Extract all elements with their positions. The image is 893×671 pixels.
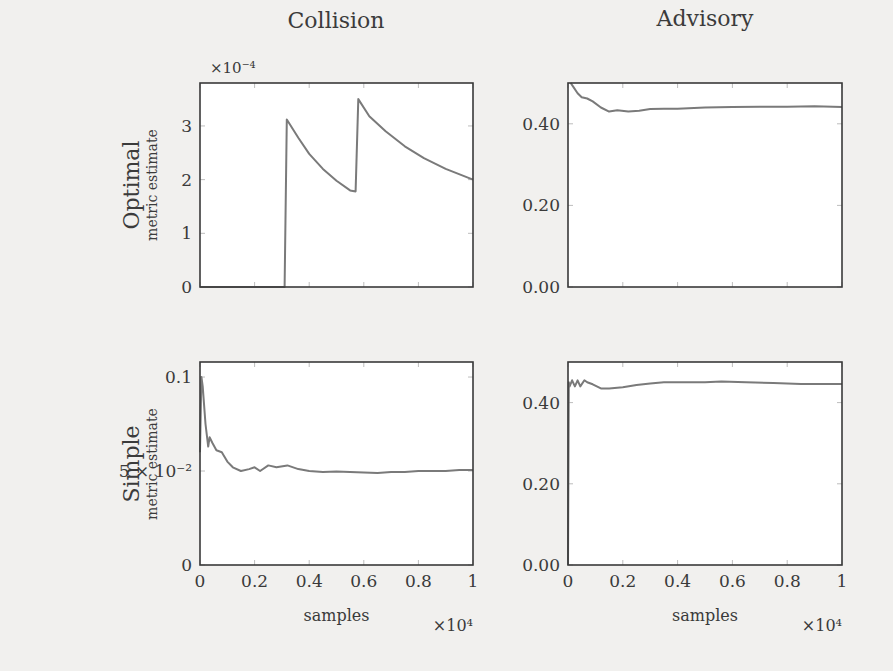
plot-area [568,362,842,565]
x-tick-label: 0.8 [774,571,801,591]
x-tick-label: 0.4 [664,571,691,591]
plot-simple-advisory: 00.20.40.60.810.000.200.40samples×10⁴ [0,0,893,671]
y-tick-label: 0.40 [522,393,560,413]
x-tick-label: 0.2 [609,571,636,591]
x-tick-label: 0 [563,571,574,591]
x-multiplier-label: ×10⁴ [802,616,842,635]
x-tick-label: 0.6 [719,571,746,591]
x-tick-label: 1 [837,571,848,591]
y-tick-label: 0.00 [522,555,560,575]
y-tick-label: 0.20 [522,474,560,494]
x-axis-label: samples [672,606,738,625]
figure: Collision Advisory Optimal metric estima… [0,0,893,671]
